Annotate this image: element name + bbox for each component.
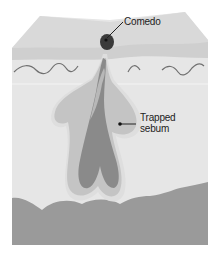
skin-diagram bbox=[0, 0, 220, 261]
trapped-sebum-label-line1: Trapped bbox=[140, 112, 180, 123]
comedo-pore-dot bbox=[104, 38, 107, 41]
sebum-leader-dot bbox=[118, 122, 122, 126]
comedo-label: Comedo bbox=[124, 16, 161, 27]
trapped-sebum-label-line2: sebum bbox=[140, 123, 180, 134]
comedo-plug bbox=[100, 34, 114, 50]
trapped-sebum-label: Trapped sebum bbox=[140, 112, 180, 134]
